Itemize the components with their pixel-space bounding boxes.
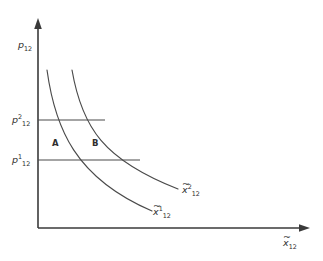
curve-1-label: x112: [152, 205, 171, 220]
price-label-p1: p112: [11, 153, 30, 168]
region-label-b: B: [92, 138, 98, 148]
demand-curve-2: [72, 70, 178, 189]
curve-1-label-sub: 12: [163, 212, 171, 220]
price-label-p2-sub: 12: [22, 120, 30, 128]
x-axis-label-sub: 12: [289, 243, 297, 251]
price-label-p1-sub: 12: [22, 160, 30, 168]
y-axis-label-sub: 12: [24, 45, 32, 53]
price-label-p2-base: p: [11, 114, 18, 125]
price-label-p1-base: p: [11, 154, 18, 165]
x-axis-arrowhead: [299, 224, 310, 232]
y-axis-arrowhead: [34, 18, 42, 29]
curve-2-label-sub: 12: [192, 190, 200, 198]
region-label-a: A: [52, 138, 59, 148]
y-axis-label-base: p: [17, 39, 24, 50]
economics-demand-diagram: p12 ~ x12 p212 p112 ~ x112 ~ x212 A B: [0, 0, 323, 261]
curve-2-label: x212: [181, 183, 200, 198]
price-label-p2: p212: [11, 113, 30, 128]
demand-curve-1: [47, 70, 152, 211]
y-axis-label: p12: [17, 39, 32, 53]
